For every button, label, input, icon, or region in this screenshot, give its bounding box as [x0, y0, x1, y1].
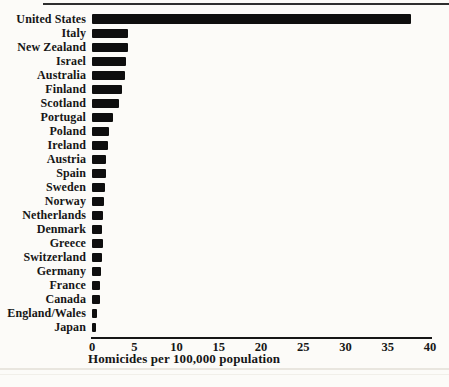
category-label: Germany	[0, 264, 86, 278]
category-label: Switzerland	[0, 250, 86, 264]
bar-spain	[92, 169, 106, 178]
top-rule	[43, 3, 449, 5]
bar-canada	[92, 295, 100, 304]
category-label: Canada	[0, 292, 86, 306]
bar-england-wales	[92, 309, 97, 318]
chart-row: Poland	[0, 124, 449, 138]
bar-japan	[92, 323, 96, 332]
scan-artifact-line	[0, 368, 449, 370]
chart-row: Finland	[0, 82, 449, 96]
bar-italy	[92, 29, 128, 38]
category-label: Italy	[0, 26, 86, 40]
bar-new-zealand	[92, 43, 128, 52]
bar-ireland	[92, 141, 108, 150]
chart-row: Scotland	[0, 96, 449, 110]
category-label: Norway	[0, 194, 86, 208]
bar-sweden	[92, 183, 105, 192]
chart-row: Japan	[0, 320, 449, 334]
chart-row: Ireland	[0, 138, 449, 152]
chart-row: Switzerland	[0, 250, 449, 264]
chart-row: Sweden	[0, 180, 449, 194]
category-label: Austria	[0, 152, 86, 166]
chart-row: United States	[0, 12, 449, 26]
bar-finland	[92, 85, 122, 94]
category-label: New Zealand	[0, 40, 86, 54]
x-axis-line	[91, 337, 432, 339]
category-label: United States	[0, 12, 86, 26]
chart-row: England/Wales	[0, 306, 449, 320]
category-label: England/Wales	[0, 306, 86, 320]
category-label: Greece	[0, 236, 86, 250]
category-label: Denmark	[0, 222, 86, 236]
x-tick-label-25: 25	[297, 340, 310, 355]
bar-germany	[92, 267, 101, 276]
category-label: Israel	[0, 54, 86, 68]
chart-row: Australia	[0, 68, 449, 82]
category-label: France	[0, 278, 86, 292]
bar-switzerland	[92, 253, 102, 262]
bar-norway	[92, 197, 104, 206]
category-label: Poland	[0, 124, 86, 138]
bar-rows: United StatesItalyNew ZealandIsraelAustr…	[0, 12, 449, 334]
category-label: Sweden	[0, 180, 86, 194]
chart-row: Denmark	[0, 222, 449, 236]
chart-row: France	[0, 278, 449, 292]
x-tick-label-40: 40	[424, 340, 437, 355]
bar-poland	[92, 127, 109, 136]
category-label: Finland	[0, 82, 86, 96]
category-label: Japan	[0, 320, 86, 334]
scan-artifact-line-2	[0, 374, 449, 375]
chart-row: Italy	[0, 26, 449, 40]
chart-row: Greece	[0, 236, 449, 250]
category-label: Portugal	[0, 110, 86, 124]
bar-france	[92, 281, 100, 290]
category-label: Ireland	[0, 138, 86, 152]
bar-scotland	[92, 99, 119, 108]
chart-row: Portugal	[0, 110, 449, 124]
chart-row: Norway	[0, 194, 449, 208]
bar-portugal	[92, 113, 113, 122]
chart-row: New Zealand	[0, 40, 449, 54]
bar-greece	[92, 239, 103, 248]
bar-australia	[92, 71, 125, 80]
category-label: Spain	[0, 166, 86, 180]
chart-row: Netherlands	[0, 208, 449, 222]
chart-row: Canada	[0, 292, 449, 306]
chart-row: Germany	[0, 264, 449, 278]
x-axis-title: Homicides per 100,000 population	[88, 351, 280, 367]
category-label: Scotland	[0, 96, 86, 110]
chart-figure: United StatesItalyNew ZealandIsraelAustr…	[0, 0, 449, 387]
chart-row: Israel	[0, 54, 449, 68]
chart-row: Spain	[0, 166, 449, 180]
x-tick-label-35: 35	[382, 340, 395, 355]
category-label: Australia	[0, 68, 86, 82]
bar-denmark	[92, 225, 102, 234]
bar-austria	[92, 155, 106, 164]
bar-netherlands	[92, 211, 103, 220]
chart-row: Austria	[0, 152, 449, 166]
x-tick-label-30: 30	[339, 340, 352, 355]
bar-israel	[92, 57, 126, 66]
category-label: Netherlands	[0, 208, 86, 222]
bar-united-states	[92, 14, 411, 25]
